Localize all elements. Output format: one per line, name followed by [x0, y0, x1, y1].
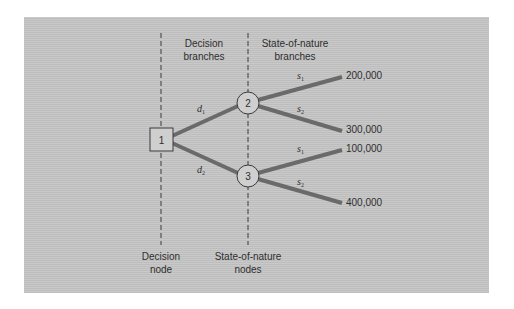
chance-node-2: 2 [237, 92, 259, 114]
payoff-100000: 100,000 [346, 143, 382, 155]
label-d2: d2 [197, 165, 205, 178]
footer-state-of-nature-nodes: State-of-nature nodes [208, 250, 288, 276]
label-node2-s1: s1 [297, 71, 304, 84]
decision-node-1: 1 [150, 128, 173, 151]
node-2-label: 2 [245, 98, 251, 109]
label-node3-s1: s1 [297, 144, 304, 157]
branch-d2 [172, 143, 238, 173]
label-d1: d1 [197, 104, 205, 117]
label-node3-s2: s2 [297, 177, 304, 190]
payoff-300000: 300,000 [346, 124, 382, 136]
header-state-of-nature-branches: State-of-nature branches [255, 37, 335, 63]
node-1-label: 1 [159, 135, 165, 146]
chance-node-3: 3 [237, 165, 259, 187]
header-decision-branches: Decision branches [172, 37, 236, 63]
node-3-label: 3 [245, 171, 251, 182]
branch-d1 [172, 106, 238, 136]
payoff-400000: 400,000 [346, 197, 382, 209]
label-node2-s2: s2 [297, 104, 304, 117]
payoff-200000: 200,000 [346, 70, 382, 82]
footer-decision-node: Decision node [131, 250, 191, 276]
